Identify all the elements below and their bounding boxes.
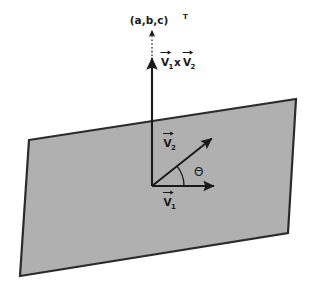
vector-v1-label-subscript: 1 (171, 203, 176, 211)
cross-product-operator: x (174, 56, 181, 68)
cross-product-v2-subscript: 2 (191, 63, 196, 71)
normal-vector-label-superscript: T (183, 13, 188, 21)
cross-product-v2-vector-hat (183, 51, 193, 54)
cross-product-v1-vector-hat (161, 51, 171, 54)
diagram-canvas: (a,b,c) T V 1 x V 2 V 2 V 1 (0, 0, 311, 292)
vector-v2-label-subscript: 2 (171, 144, 176, 152)
normal-vector-label-base: (a,b,c) (130, 14, 168, 26)
normal-vector-label: (a,b,c) T (130, 13, 188, 26)
vector-cross-product-diagram: (a,b,c) T V 1 x V 2 V 2 V 1 (0, 0, 311, 292)
cross-product-v1-subscript: 1 (169, 63, 174, 71)
angle-theta-label: Θ (194, 165, 203, 179)
cross-product-label: V 1 x V 2 (161, 51, 196, 71)
shaded-plane (20, 99, 296, 276)
